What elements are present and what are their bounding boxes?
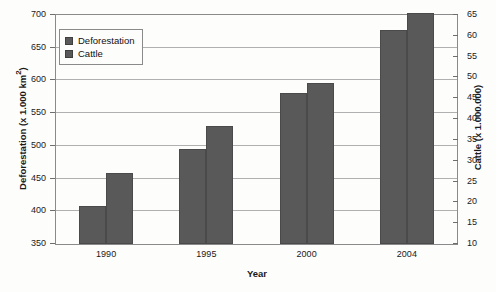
bar-deforestation — [179, 149, 206, 244]
x-axis-tick-label: 1990 — [96, 249, 116, 259]
right-axis-tick-label: 15 — [467, 217, 477, 227]
right-axis-tick-label: 25 — [467, 176, 477, 186]
right-axis-tick-label: 30 — [467, 155, 477, 165]
left-axis-tick-label: 450 — [31, 173, 46, 183]
bar-cattle — [206, 126, 233, 244]
bar-cattle — [407, 13, 434, 244]
left-axis-title: Deforestation (x 1.000 km2) — [14, 49, 27, 209]
right-axis-tick-label: 20 — [467, 196, 477, 206]
left-axis-tick-label: 350 — [31, 238, 46, 248]
left-axis-tick-label: 500 — [31, 140, 46, 150]
legend-label: Deforestation — [78, 35, 135, 46]
left-axis-tick — [50, 79, 55, 80]
left-axis-tick — [50, 243, 55, 244]
x-axis-tick-label: 2000 — [297, 249, 317, 259]
left-axis-tick-label: 650 — [31, 42, 46, 52]
bar-deforestation — [280, 93, 307, 244]
right-axis-tick-label: 55 — [467, 51, 477, 61]
right-axis-tick-label: 65 — [467, 9, 477, 19]
left-axis-tick — [50, 145, 55, 146]
left-axis-tick — [50, 112, 55, 113]
chart-legend: Deforestation Cattle — [59, 29, 143, 65]
left-axis-tick-label: 550 — [31, 107, 46, 117]
left-axis-title-superscript: 2 — [14, 70, 23, 74]
x-axis-category-labels: 1990199520002004 — [55, 249, 458, 263]
x-axis-tick-label: 2004 — [397, 249, 417, 259]
left-axis-title-suffix: ) — [17, 67, 28, 70]
left-axis-tick-label: 400 — [31, 205, 46, 215]
legend-swatch-icon — [65, 37, 73, 45]
bar-cattle — [106, 173, 133, 244]
legend-swatch-icon — [65, 50, 73, 58]
left-axis-tick-label: 700 — [31, 9, 46, 19]
right-axis-tick-label: 45 — [467, 92, 477, 102]
left-axis-tick-label: 600 — [31, 74, 46, 84]
left-axis-title-text: Deforestation (x 1.000 km — [17, 75, 28, 190]
legend-label: Cattle — [78, 48, 103, 59]
chart-figure: Deforestation (x 1.000 km2) Cattle (x 1.… — [0, 0, 496, 292]
legend-item-deforestation: Deforestation — [65, 34, 135, 47]
legend-item-cattle: Cattle — [65, 47, 135, 60]
right-axis-tick-label: 40 — [467, 113, 477, 123]
right-axis-tick-label: 50 — [467, 71, 477, 81]
right-axis-tick-label: 10 — [467, 238, 477, 248]
bar-cattle — [307, 83, 334, 244]
x-axis-title: Year — [55, 268, 459, 279]
x-axis-tick-label: 1995 — [196, 249, 216, 259]
left-axis-tick — [50, 210, 55, 211]
left-axis-tick — [50, 14, 55, 15]
left-axis-tick — [50, 47, 55, 48]
bar-deforestation — [79, 206, 106, 244]
right-axis-tick-label: 35 — [467, 134, 477, 144]
bar-deforestation — [380, 30, 407, 244]
right-axis-tick-label: 60 — [467, 30, 477, 40]
left-axis-tick — [50, 178, 55, 179]
